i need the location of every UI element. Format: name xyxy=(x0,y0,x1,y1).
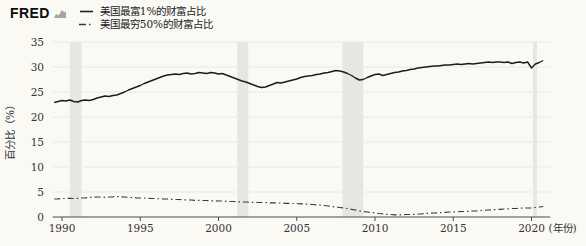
recession-band xyxy=(533,42,537,217)
y-tick-label: 35 xyxy=(31,36,44,48)
bottom50-percent-line xyxy=(54,197,543,216)
recession-band xyxy=(70,42,82,217)
y-tick-label: 30 xyxy=(31,61,44,73)
y-tick-label: 15 xyxy=(31,136,44,148)
y-axis-title: 百分比（%） xyxy=(4,100,16,160)
x-tick-label: 2000 xyxy=(205,222,232,234)
x-tick-label: 2020 xyxy=(518,222,545,234)
y-tick-label: 20 xyxy=(31,111,44,123)
recession-band xyxy=(342,42,363,217)
x-axis-unit-label: (年份) xyxy=(549,222,577,234)
y-tick-label: 25 xyxy=(31,86,44,98)
x-tick-label: 2015 xyxy=(440,222,467,234)
y-tick-label: 10 xyxy=(31,161,44,173)
y-tick-label: 0 xyxy=(37,211,44,223)
y-tick-label: 5 xyxy=(37,186,44,198)
x-tick-label: 1990 xyxy=(49,222,76,234)
wealth-share-chart: 1990199520002005201020152020(年份)05101520… xyxy=(0,0,586,246)
x-tick-label: 2010 xyxy=(362,222,389,234)
x-tick-label: 1995 xyxy=(127,222,154,234)
x-tick-label: 2005 xyxy=(283,222,310,234)
recession-band xyxy=(237,42,248,217)
fred-wealth-chart-screenshot: FRED 美国最富1%的财富占比 美国最穷50%的财富占比 1990199520… xyxy=(0,0,586,246)
